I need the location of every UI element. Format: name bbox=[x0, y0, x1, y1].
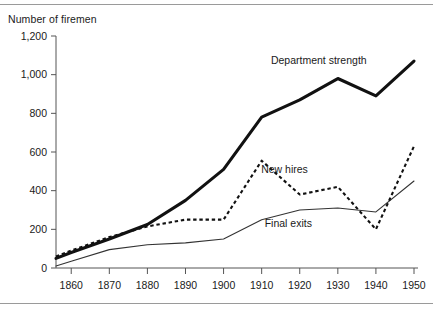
series-line-department-strength bbox=[56, 61, 414, 258]
x-tick-label: 1860 bbox=[60, 279, 84, 291]
x-tick-label: 1920 bbox=[288, 279, 312, 291]
x-tick-label: 1880 bbox=[136, 279, 160, 291]
chart-figure: Number of firemen 02004006008001,0001,20… bbox=[0, 0, 433, 311]
x-tick-label: 1910 bbox=[250, 279, 274, 291]
series-label-final-exits: Final exits bbox=[265, 217, 312, 229]
x-tick-label: 1940 bbox=[364, 279, 388, 291]
y-tick-label: 400 bbox=[29, 184, 47, 196]
series-label-new-hires: New hires bbox=[261, 163, 308, 175]
series-annotations: Department strengthNew hiresFinal exits bbox=[261, 54, 367, 229]
x-tick-label: 1890 bbox=[174, 279, 198, 291]
y-tick-label: 1,200 bbox=[21, 30, 47, 42]
series-label-department-strength: Department strength bbox=[271, 54, 367, 66]
y-axis-tick-labels: 02004006008001,0001,200 bbox=[21, 30, 47, 274]
x-tick-label: 1870 bbox=[98, 279, 122, 291]
y-tick-label: 800 bbox=[29, 107, 47, 119]
series-line-final-exits bbox=[56, 181, 414, 266]
x-axis-tick-marks bbox=[71, 268, 414, 274]
x-axis-tick-labels: 1860187018801890190019101920193019401950 bbox=[60, 279, 426, 291]
y-tick-label: 0 bbox=[41, 262, 47, 274]
y-axis-tick-marks bbox=[51, 36, 56, 268]
y-tick-label: 200 bbox=[29, 223, 47, 235]
y-tick-label: 1,000 bbox=[21, 68, 47, 80]
x-tick-label: 1930 bbox=[326, 279, 350, 291]
x-tick-label: 1900 bbox=[212, 279, 236, 291]
x-tick-label: 1950 bbox=[402, 279, 426, 291]
y-tick-label: 600 bbox=[29, 146, 47, 158]
line-chart-plot: 02004006008001,0001,200 1860187018801890… bbox=[0, 0, 433, 311]
